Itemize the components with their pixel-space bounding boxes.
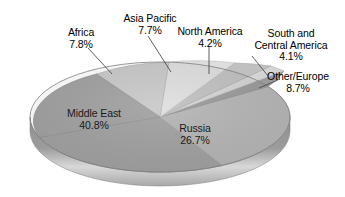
pie-label-north-america: North America 4.2% <box>170 26 250 49</box>
pie-label-asia-pacific-name: Asia Pacific <box>123 12 176 24</box>
pie-label-middle-east-name: Middle East <box>67 107 121 119</box>
pie-label-russia-name: Russia <box>179 122 211 134</box>
pie-label-africa-name: Africa <box>68 26 94 38</box>
pie-label-africa-value: 7.8% <box>55 39 107 51</box>
pie-label-africa: Africa 7.8% <box>55 27 107 50</box>
pie-label-north-america-value: 4.2% <box>170 38 250 50</box>
pie-label-russia: Russia 26.7% <box>162 123 228 146</box>
pie-label-other-europe-value: 8.7% <box>255 83 341 95</box>
pie-label-south-central-america: South and Central America 4.1% <box>243 28 339 63</box>
pie-label-north-america-name: North America <box>177 25 242 37</box>
pie-chart-figure: Africa 7.8% Asia Pacific 7.7% North Amer… <box>0 0 345 197</box>
pie-label-south-central-america-name-1: South and <box>268 27 315 39</box>
pie-label-middle-east: Middle East 40.8% <box>52 108 136 131</box>
pie-label-south-central-america-value: 4.1% <box>243 51 339 63</box>
pie-label-middle-east-value: 40.8% <box>52 120 136 132</box>
pie-label-russia-value: 26.7% <box>162 135 228 147</box>
pie-label-other-europe-name: Other/Europe <box>267 70 329 82</box>
pie-label-other-europe: Other/Europe 8.7% <box>255 71 341 94</box>
